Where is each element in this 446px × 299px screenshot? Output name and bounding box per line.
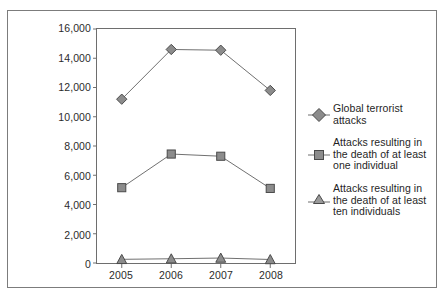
legend-label: Global terrorist attacks — [333, 103, 403, 126]
triangle-marker-icon — [308, 189, 330, 211]
y-tick-label: 8,000 — [64, 140, 91, 152]
x-tick-label: 2006 — [159, 269, 183, 281]
square-data-point — [266, 184, 274, 192]
legend-entry-global-terrorist-attacks: Global terrorist attacks — [308, 103, 436, 126]
series-2-markers — [118, 150, 275, 192]
x-axis-labels: 2005 2006 2007 2008 — [96, 269, 296, 289]
x-tick-label: 2005 — [109, 269, 133, 281]
legend-label: Attacks resulting in the death of at lea… — [333, 183, 426, 218]
chart-figure: 16,000 14,000 12,000 10,000 8,000 6,000 … — [7, 10, 437, 288]
legend-label: Attacks resulting in the death of at lea… — [333, 137, 426, 172]
x-axis-ticks — [122, 263, 271, 268]
legend-label-line: Attacks resulting in — [333, 183, 426, 195]
square-data-point — [167, 150, 175, 158]
series-2-polyline — [122, 154, 271, 188]
plot-area — [96, 28, 296, 264]
series-1-markers — [117, 44, 276, 104]
legend-label-line: Global terrorist — [333, 103, 403, 115]
y-tick-label: 12,000 — [58, 81, 91, 93]
diamond-data-point — [216, 45, 226, 55]
y-tick-label: 14,000 — [58, 52, 91, 64]
square-marker-icon — [308, 144, 330, 166]
legend-label-line: one individual — [333, 160, 426, 172]
y-axis-labels: 16,000 14,000 12,000 10,000 8,000 6,000 … — [8, 11, 91, 289]
y-tick-label: 6,000 — [64, 170, 91, 182]
legend-label-line: attacks — [333, 115, 403, 127]
legend-label-line: ten individuals — [333, 206, 426, 218]
chart-legend: Global terrorist attacks Attacks resulti… — [308, 103, 436, 229]
x-tick-label: 2007 — [209, 269, 233, 281]
y-axis-ticks — [93, 29, 97, 263]
y-tick-label: 10,000 — [58, 111, 91, 123]
y-tick-label: 16,000 — [58, 22, 91, 34]
y-tick-label: 2,000 — [64, 229, 91, 241]
y-tick-label: 0 — [85, 258, 91, 270]
series-3-polyline — [122, 258, 271, 259]
series-1-polyline — [122, 49, 271, 99]
series-line-diamond — [122, 49, 271, 99]
square-data-point — [217, 152, 225, 160]
legend-entry-attacks-one-death: Attacks resulting in the death of at lea… — [308, 137, 436, 172]
x-tick-label: 2008 — [259, 269, 283, 281]
series-line-square — [122, 154, 271, 188]
series-line-triangle — [122, 258, 271, 259]
legend-entry-attacks-ten-deaths: Attacks resulting in the death of at lea… — [308, 183, 436, 218]
diamond-marker-icon — [308, 104, 330, 126]
y-tick-label: 4,000 — [64, 199, 91, 211]
square-data-point — [118, 184, 126, 192]
diamond-data-point — [265, 85, 275, 95]
chart-plot-svg — [97, 29, 295, 263]
